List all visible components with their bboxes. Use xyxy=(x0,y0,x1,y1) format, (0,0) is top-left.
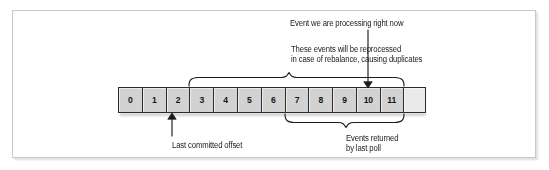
annotation-overlay xyxy=(0,0,549,170)
figure-root: Event we are processing right now These … xyxy=(0,0,549,170)
top-callout-arrowhead xyxy=(364,82,372,88)
last-committed-arrowhead xyxy=(168,113,176,119)
last-poll-brace xyxy=(285,114,404,128)
reprocessed-brace xyxy=(189,73,404,87)
figure-stage: Event we are processing right now These … xyxy=(0,0,549,170)
